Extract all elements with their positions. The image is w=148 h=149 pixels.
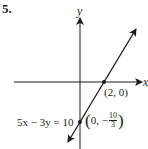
y-axis-label: y — [77, 5, 82, 17]
x-axis-label: x — [143, 76, 148, 88]
y-intercept-point — [78, 120, 82, 124]
y-intercept-prefix: 0, − — [91, 115, 108, 126]
y-intercept-label: ( 0, − 10 3 ) — [85, 112, 124, 129]
close-paren: ) — [118, 112, 124, 129]
x-intercept-point — [102, 80, 106, 84]
equation-label: 5x − 3y = 10 — [17, 117, 73, 128]
fraction-numerator: 10 — [109, 112, 117, 120]
problem-number: 5. — [2, 2, 12, 15]
graph-figure: 5. y x (2, 0) 5x − 3y = 10 ( 0, − 10 3 ) — [0, 0, 148, 149]
x-intercept-label: (2, 0) — [104, 87, 128, 98]
fraction-denominator: 3 — [111, 121, 115, 129]
graph-line — [104, 29, 136, 82]
fraction: 10 3 — [109, 112, 117, 129]
